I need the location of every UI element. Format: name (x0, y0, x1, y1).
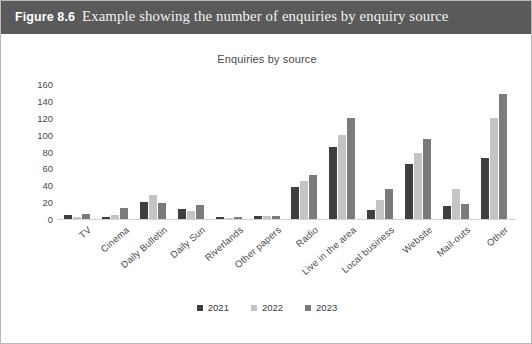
plot-bars (58, 84, 513, 219)
bar-group (214, 84, 244, 219)
bar (300, 181, 308, 219)
y-axis-labels: 020406080100120140160 (11, 84, 53, 219)
y-axis-tick: 140 (13, 95, 53, 106)
x-axis-tick: Cinema (98, 224, 131, 255)
chart-title: Enquiries by source (1, 53, 532, 65)
bar (499, 94, 507, 219)
chart-area: Enquiries by source 02040608010012014016… (1, 34, 532, 344)
y-axis-tick: 80 (13, 146, 53, 157)
legend-item[interactable]: 2023 (305, 302, 337, 313)
bar-group (327, 84, 357, 219)
bar-group (365, 84, 395, 219)
bar (225, 218, 233, 219)
figure-number: Figure 8.6 (15, 10, 75, 24)
x-axis-tick: Daily Bulletin (118, 224, 169, 270)
x-axis-tick: Other papers (232, 224, 283, 270)
x-axis-tick: Local business (340, 224, 397, 275)
x-axis-tick: TV (76, 224, 93, 241)
legend-item[interactable]: 2022 (251, 302, 283, 313)
bar (338, 135, 346, 219)
y-axis-tick: 160 (13, 79, 53, 90)
bar (461, 204, 469, 219)
bar (196, 205, 204, 219)
x-axis-tick: Daily Sun (168, 224, 207, 260)
bar (111, 215, 119, 219)
bar (140, 202, 148, 219)
y-axis-tick: 40 (13, 180, 53, 191)
chart-legend: 202120222023 (1, 302, 532, 313)
bar (149, 195, 157, 219)
bar (64, 215, 72, 219)
bar (490, 118, 498, 219)
bar (263, 216, 271, 219)
bar (347, 118, 355, 219)
bar-group (100, 84, 130, 219)
legend-label: 2022 (262, 302, 283, 313)
bar (452, 189, 460, 219)
bar-group (441, 84, 471, 219)
bar (272, 216, 280, 219)
legend-swatch-icon (305, 305, 311, 311)
bar (423, 139, 431, 219)
bar (376, 200, 384, 219)
bar (120, 208, 128, 219)
y-axis-tick: 100 (13, 129, 53, 140)
x-axis-line (58, 219, 515, 220)
bar (158, 203, 166, 219)
bar-group (176, 84, 206, 219)
bar (443, 206, 451, 219)
legend-label: 2021 (208, 302, 229, 313)
bar-group (289, 84, 319, 219)
figure-container: Figure 8.6Example showing the number of … (0, 0, 532, 344)
bar-group (252, 84, 282, 219)
legend-swatch-icon (197, 305, 203, 311)
bar (73, 217, 81, 219)
x-axis-tick: Radio (294, 224, 321, 249)
figure-caption-text: Example showing the number of enquiries … (82, 8, 449, 24)
bar-group (479, 84, 509, 219)
bar (367, 210, 375, 219)
bar (309, 175, 317, 219)
legend-item[interactable]: 2021 (197, 302, 229, 313)
bar (329, 147, 337, 219)
bar-group (138, 84, 168, 219)
bar (234, 217, 242, 219)
bar-group (403, 84, 433, 219)
figure-caption-bar: Figure 8.6Example showing the number of … (1, 1, 532, 34)
bar (102, 217, 110, 219)
bar (291, 187, 299, 219)
y-axis-tick: 0 (13, 214, 53, 225)
bar (405, 164, 413, 219)
y-axis-tick: 20 (13, 197, 53, 208)
x-axis-tick: Website (400, 224, 434, 256)
bar (385, 189, 393, 219)
bar (187, 211, 195, 219)
legend-label: 2023 (316, 302, 337, 313)
bar (178, 209, 186, 219)
bar (481, 158, 489, 219)
x-axis-tick: Other (484, 224, 510, 249)
bar (414, 153, 422, 219)
y-axis-tick: 120 (13, 112, 53, 123)
x-axis-tick: Live in the area (300, 224, 359, 277)
bar-group (62, 84, 92, 219)
bar (254, 216, 262, 219)
y-axis-tick: 60 (13, 163, 53, 174)
figure-caption: Figure 8.6Example showing the number of … (15, 8, 449, 25)
bar (216, 217, 224, 219)
legend-swatch-icon (251, 305, 257, 311)
bar (82, 214, 90, 219)
x-axis-tick: Riverlands (202, 224, 245, 263)
x-axis-tick: Mail-outs (435, 224, 473, 259)
